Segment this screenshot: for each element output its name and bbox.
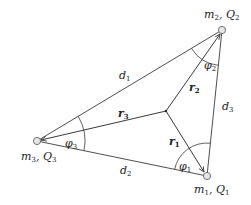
mass-node-m2 xyxy=(218,26,225,33)
label-d3-sub: 3 xyxy=(229,106,233,114)
label-d3: d3 xyxy=(222,101,234,114)
label-phi1: φ1 xyxy=(179,161,191,174)
label-d2: d2 xyxy=(120,165,132,178)
label-phi3-sub: 3 xyxy=(73,143,77,151)
label-d2-main: d xyxy=(120,164,127,177)
label-m3-q3: m3, Q3 xyxy=(21,151,56,164)
label-m3-sub: 3 xyxy=(31,156,35,164)
label-phi2-main: φ xyxy=(204,59,212,72)
angle-arc-phi3 xyxy=(78,116,85,150)
mass-node-m3 xyxy=(33,137,40,144)
label-phi1-main: φ xyxy=(179,160,187,173)
label-d1: d1 xyxy=(119,70,131,83)
label-q1-sub: 1 xyxy=(225,189,229,197)
label-r3: r3 xyxy=(118,108,129,120)
mass-node-m1 xyxy=(203,172,210,179)
label-phi3-main: φ xyxy=(65,137,73,150)
label-phi2-sub: 2 xyxy=(212,65,216,73)
label-m1-sub: 1 xyxy=(204,189,208,197)
label-m1-q1: m1, Q1 xyxy=(194,184,229,197)
label-phi3: φ3 xyxy=(65,138,77,151)
label-r2: r2 xyxy=(189,82,200,94)
label-m2-sub: 2 xyxy=(214,14,218,22)
label-r1: r1 xyxy=(169,136,180,148)
side-d3 xyxy=(207,30,222,176)
label-m2-main: m xyxy=(204,8,214,21)
label-q1-main: Q xyxy=(216,183,225,196)
label-m2-q2: m2, Q2 xyxy=(204,9,239,22)
label-d2-sub: 2 xyxy=(127,170,131,178)
center-point xyxy=(165,110,167,112)
label-d1-main: d xyxy=(119,69,126,82)
label-r2-sub: 2 xyxy=(195,86,200,95)
label-q3-sub: 3 xyxy=(52,156,56,164)
label-q2-sub: 2 xyxy=(235,14,239,22)
label-r1-sub: 1 xyxy=(175,140,180,149)
label-phi1-sub: 1 xyxy=(187,166,191,174)
label-r3-sub: 3 xyxy=(124,112,129,121)
label-m3-main: m xyxy=(21,150,31,163)
label-q2-main: Q xyxy=(226,8,235,21)
label-d3-main: d xyxy=(222,100,229,113)
label-phi2: φ2 xyxy=(204,60,216,73)
label-q3-main: Q xyxy=(43,150,52,163)
vector-r3 xyxy=(41,111,166,140)
label-m1-main: m xyxy=(194,183,204,196)
label-d1-sub: 1 xyxy=(126,75,130,83)
